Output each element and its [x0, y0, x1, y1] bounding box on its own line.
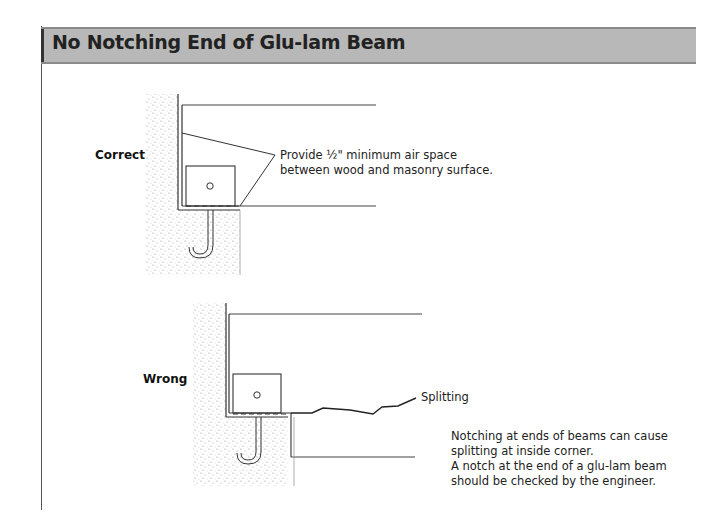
leader-line [182, 133, 275, 206]
note-line: should be checked by the engineer. [451, 474, 668, 489]
split-crack [291, 398, 416, 414]
note-line: Provide ½" minimum air space [280, 148, 493, 163]
note-line: Notching at ends of beams can cause [451, 429, 668, 444]
correct-label: Correct [95, 148, 145, 162]
wrong-label: Wrong [143, 372, 187, 386]
correct-note: Provide ½" minimum air space between woo… [280, 148, 493, 178]
masonry-wall [193, 303, 288, 486]
note-line: between wood and masonry surface. [280, 163, 493, 178]
splitting-callout: Splitting [421, 390, 469, 405]
wrong-note: Notching at ends of beams can cause spli… [451, 429, 668, 489]
wrong-diagram [193, 303, 422, 486]
bolt-hole [207, 183, 213, 189]
bolt-hole [254, 392, 260, 398]
bearing-plate [233, 374, 281, 413]
note-line: splitting at inside corner. [451, 444, 668, 459]
note-line: A notch at the end of a glu-lam beam [451, 459, 668, 474]
correct-diagram [146, 94, 376, 275]
bearing-plate [186, 166, 235, 206]
